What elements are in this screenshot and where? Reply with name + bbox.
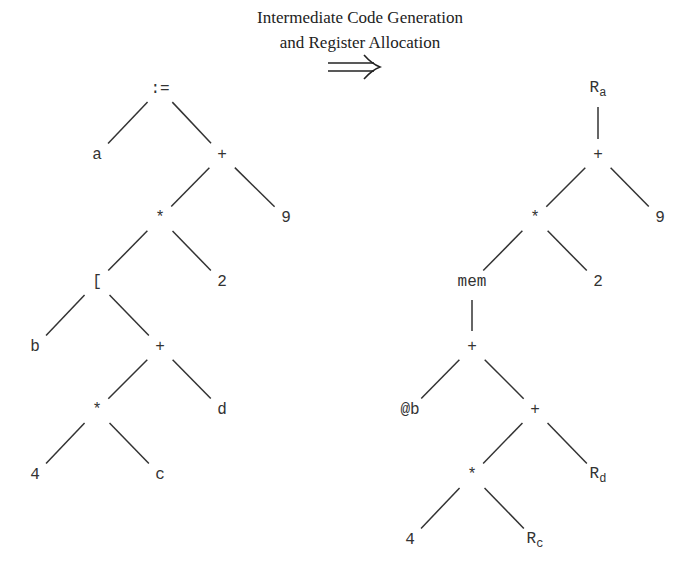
tree-node-four: 4 <box>30 467 40 483</box>
tree-diagram: Intermediate Code Generation and Registe… <box>0 0 688 585</box>
tree-node-nine: 9 <box>655 210 665 226</box>
tree-node-plus2: + <box>155 339 165 355</box>
tree-edge <box>171 168 209 207</box>
tree-node-index: [ <box>92 274 102 290</box>
tree-edge <box>483 231 522 271</box>
tree-node-atb: @b <box>400 402 419 418</box>
tree-node-two: 2 <box>593 274 603 290</box>
tree-edge <box>46 295 85 335</box>
tree-edge <box>485 360 524 399</box>
tree-edges <box>0 0 688 585</box>
tree-node-assign: := <box>150 81 169 97</box>
tree-node-four: 4 <box>405 532 415 548</box>
tree-edge <box>108 360 147 399</box>
tree-node-rd: Rd <box>590 466 607 485</box>
tree-edge <box>483 423 522 464</box>
tree-node-mul1: * <box>155 210 165 226</box>
tree-node-two: 2 <box>217 274 227 290</box>
tree-edge <box>548 423 587 464</box>
tree-edge <box>110 423 149 464</box>
tree-node-mem: mem <box>458 274 487 290</box>
tree-node-mul1: * <box>530 210 540 226</box>
tree-edge <box>46 423 85 463</box>
tree-node-plus3: + <box>530 402 540 418</box>
tree-node-mul2: * <box>467 467 477 483</box>
tree-edge <box>108 231 147 271</box>
tree-edge <box>421 360 459 399</box>
tree-edge <box>110 295 149 336</box>
tree-node-a: a <box>92 147 102 163</box>
tree-node-plus2: + <box>467 339 477 355</box>
double-right-arrow-icon <box>326 52 382 82</box>
tree-edge <box>235 168 275 207</box>
tree-node-ra: Ra <box>590 80 607 99</box>
tree-node-b: b <box>30 339 40 355</box>
tree-node-c: c <box>155 467 165 483</box>
tree-edge <box>485 488 524 529</box>
tree-edge <box>421 488 460 528</box>
tree-edge <box>108 102 148 143</box>
caption-line-2: and Register Allocation <box>230 33 490 53</box>
tree-edge <box>173 360 211 399</box>
tree-node-d: d <box>217 402 227 418</box>
tree-node-nine: 9 <box>281 210 291 226</box>
tree-edge <box>548 231 587 271</box>
caption-line-1: Intermediate Code Generation <box>230 8 490 28</box>
tree-edge <box>611 168 649 207</box>
tree-edge <box>546 168 585 207</box>
tree-node-mul2: * <box>92 402 102 418</box>
tree-node-plus1: + <box>217 147 227 163</box>
tree-node-plus1: + <box>593 147 603 163</box>
tree-edge <box>172 102 211 143</box>
tree-edge <box>173 231 211 271</box>
tree-node-rc: Rc <box>527 531 544 550</box>
